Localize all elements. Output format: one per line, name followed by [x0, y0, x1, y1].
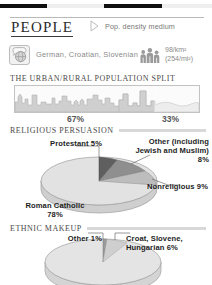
top-decorative-bar	[0, 0, 212, 13]
section-rule-ethnic	[87, 227, 206, 230]
label-ethnic-other: Other 1%	[40, 234, 102, 243]
section-title-urban-rural: THE URBAN/RURAL POPULATION SPLIT	[10, 74, 175, 83]
label-roman-catholic: Roman Catholic 78%	[22, 201, 88, 219]
label-protestant: Protestant 5%	[30, 139, 102, 148]
urban-rural-chart	[14, 85, 200, 113]
section-rule-religion	[119, 129, 206, 132]
section-heading-urban-rural: THE URBAN/RURAL POPULATION SPLIT	[10, 74, 206, 83]
rural-percentage: 33%	[162, 114, 179, 124]
facts-row: German, Croatian, Slovenian 98/km² (254/…	[0, 45, 212, 69]
crowd-icon	[140, 46, 160, 64]
header-divider	[10, 17, 204, 18]
triangle-right-icon	[90, 20, 99, 32]
density-flag: Pop. density medium	[90, 20, 175, 32]
topbar-segment-dark-1	[0, 4, 47, 8]
topbar-segment-light-2	[162, 4, 212, 8]
speech-globe-icon	[9, 45, 30, 65]
page-header: PEOPLE Pop. density medium	[0, 17, 212, 41]
density-metric: 98/km²	[165, 46, 193, 55]
urban-percentage: 67%	[67, 114, 84, 124]
density-imperial: (254/mi²)	[165, 55, 193, 64]
urban-rural-silhouette	[15, 86, 199, 112]
label-nonreligious: Nonreligious 9%	[140, 182, 208, 191]
label-other-religion: Other (including Jewish and Muslim) 8%	[125, 137, 209, 165]
ethnic-pie-chart: Other 1% Croat, Slovene, Hungarian 6%	[0, 232, 212, 285]
topbar-segment-light-1	[47, 4, 104, 8]
density-flag-label: Pop. density medium	[105, 22, 175, 31]
density-values: 98/km² (254/mi²)	[165, 46, 193, 63]
urban-rural-percentages: 67% 33%	[14, 114, 200, 126]
topbar-segment-dark-2	[104, 4, 162, 8]
languages-text: German, Croatian, Slovenian	[36, 50, 138, 59]
page-title: PEOPLE	[11, 19, 73, 37]
label-ethnic-croat: Croat, Slovene, Hungarian 6%	[126, 234, 208, 252]
religion-pie-chart: Protestant 5% Other (including Jewish an…	[0, 134, 212, 224]
